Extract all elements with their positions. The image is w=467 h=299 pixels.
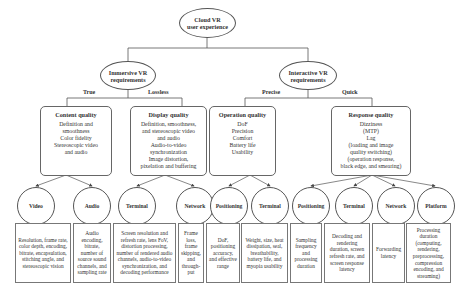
edge-label-true: True: [83, 89, 95, 95]
category-line: smoothness: [41, 128, 111, 135]
leaf-desc-terminal: Weight, size, heat dissipation, seal, br…: [241, 223, 288, 283]
leaf-desc-terminal: Screen resolution and refresh rate, lens…: [113, 223, 176, 283]
category-title: Display quality: [131, 111, 206, 118]
root-node: Cloud VR user experience: [179, 8, 236, 38]
leaf-node-terminal: Terminal: [251, 187, 289, 225]
category-line: Image distortion,: [131, 156, 206, 163]
leaf-node-positioning: Positioning: [292, 187, 330, 225]
leaf-desc-network: Frame loss, frame skipping, and through-…: [178, 223, 204, 283]
category-line: synchronization: [131, 149, 206, 156]
category-title: Response quality: [332, 111, 410, 118]
category-line: (loading and image: [332, 142, 410, 149]
category-line: black edge, and smearing): [332, 163, 410, 170]
category-line: DoF: [210, 121, 275, 128]
leaf-node-terminal: Terminal: [118, 187, 156, 225]
category-line: Usability: [210, 149, 275, 156]
leaf-desc-video: Resolution, frame rate, color depth, enc…: [15, 223, 71, 283]
leaf-desc-positioning: DoF, positioning accuracy, and effective…: [206, 223, 240, 283]
category-title: Content quality: [41, 111, 111, 118]
edge-label-precise: Precise: [262, 89, 280, 95]
leaf-node-network: Network: [176, 187, 214, 225]
category-title: Operation quality: [210, 111, 275, 118]
display-quality-box: Display quality Definition, smoothness, …: [130, 106, 207, 176]
content-quality-box: Content quality Definition and smoothnes…: [40, 106, 112, 176]
category-line: pixelation and buffering: [131, 163, 206, 170]
edge-label-quick: Quick: [342, 89, 358, 95]
category-line: Color fidelity: [41, 135, 111, 142]
category-line: (MTP): [332, 128, 410, 135]
category-line: and audio: [41, 149, 111, 156]
category-line: Definition, smoothness,: [131, 121, 206, 128]
category-line: Audio-to-video: [131, 142, 206, 149]
leaf-node-platform: Platform: [417, 187, 455, 225]
category-line: Precision: [210, 128, 275, 135]
category-line: Battery life: [210, 142, 275, 149]
category-line: Lag: [332, 135, 410, 142]
category-line: Dizziness: [332, 121, 410, 128]
category-line: and stereoscopic video: [131, 128, 206, 135]
leaf-node-audio: Audio: [73, 187, 111, 225]
operation-quality-box: Operation quality DoF Precision Comfort …: [209, 106, 276, 176]
immersive-vr-node: Immersive VR requirements: [100, 61, 156, 90]
leaf-desc-platform: Processing duration (computing, renderin…: [406, 223, 451, 283]
leaf-desc-terminal: Decoding and rendering duration, screen …: [324, 223, 370, 283]
category-line: (operation response,: [332, 156, 410, 163]
response-quality-box: Response quality Dizziness (MTP) Lag (lo…: [331, 106, 411, 176]
category-line: Comfort: [210, 135, 275, 142]
leaf-desc-network: Forwarding latency: [372, 223, 405, 283]
leaf-node-video: Video: [17, 187, 55, 225]
category-line: Stereoscopic video: [41, 142, 111, 149]
category-line: Definition and: [41, 121, 111, 128]
category-line: quality switching): [332, 149, 410, 156]
leaf-desc-positioning: Sampling frequency and processing durati…: [290, 223, 322, 283]
leaf-node-positioning: Positioning: [210, 187, 248, 225]
leaf-node-network: Network: [377, 187, 415, 225]
interactive-vr-node: Interactive VR requirements: [279, 61, 337, 90]
edge-label-lossless: Lossless: [148, 89, 169, 95]
leaf-node-terminal: Terminal: [335, 187, 373, 225]
leaf-desc-audio: Audio encoding, bitrate, number of sourc…: [73, 223, 111, 283]
category-line: and audio: [131, 135, 206, 142]
